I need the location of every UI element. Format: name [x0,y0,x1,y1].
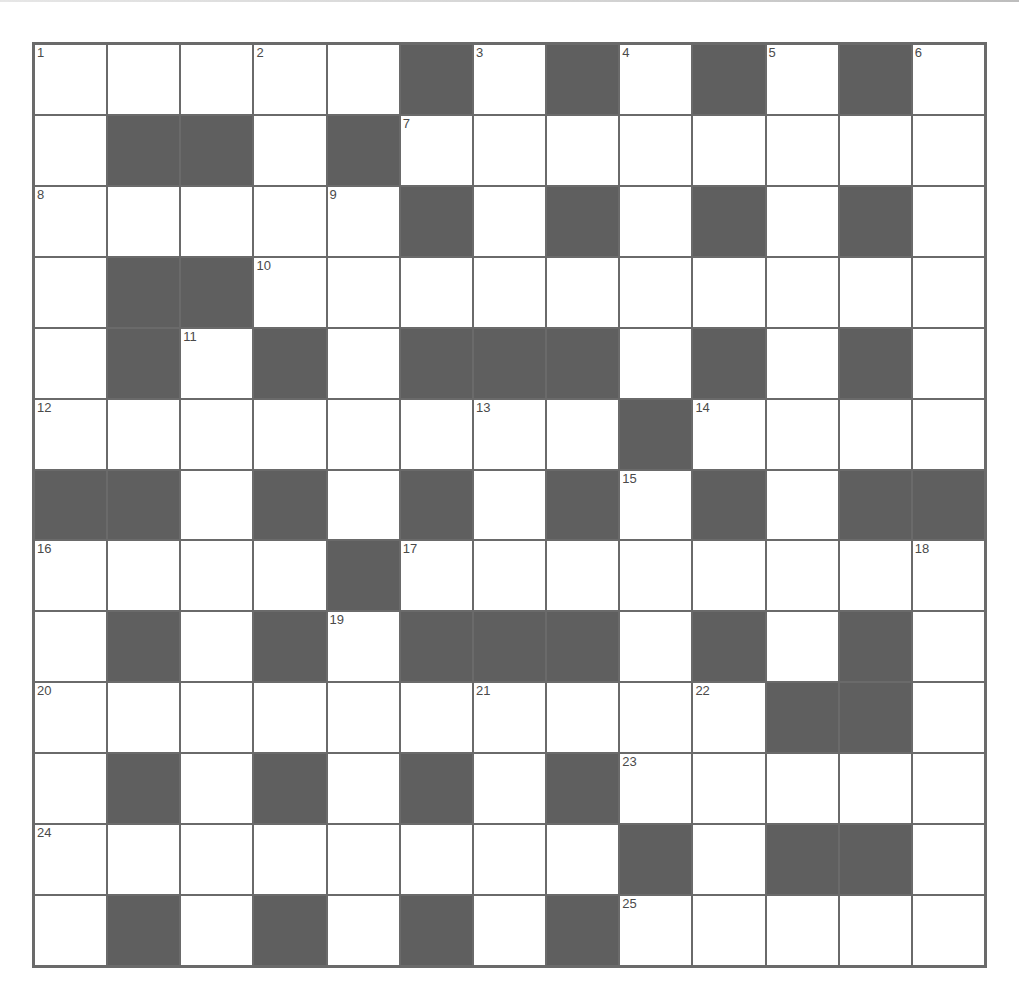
grid-cell[interactable] [767,471,838,540]
grid-cell[interactable]: 25 [620,896,691,965]
grid-cell[interactable]: 10 [254,258,325,327]
grid-cell[interactable] [401,683,472,752]
grid-cell[interactable] [328,896,399,965]
grid-cell[interactable]: 21 [474,683,545,752]
grid-cell[interactable] [547,541,618,610]
grid-cell[interactable] [620,187,691,256]
grid-cell[interactable] [254,541,325,610]
grid-cell[interactable]: 1 [35,45,106,114]
grid-cell[interactable] [693,541,764,610]
grid-cell[interactable] [913,400,984,469]
grid-cell[interactable] [693,896,764,965]
grid-cell[interactable] [620,329,691,398]
grid-cell[interactable] [254,400,325,469]
grid-cell[interactable] [693,825,764,894]
grid-cell[interactable] [767,541,838,610]
grid-cell[interactable] [840,258,911,327]
grid-cell[interactable] [474,258,545,327]
grid-cell[interactable] [840,541,911,610]
grid-cell[interactable] [913,329,984,398]
grid-cell[interactable]: 22 [693,683,764,752]
grid-cell[interactable] [35,896,106,965]
grid-cell[interactable] [328,329,399,398]
grid-cell[interactable] [474,754,545,823]
grid-cell[interactable]: 17 [401,541,472,610]
grid-cell[interactable] [181,541,252,610]
grid-cell[interactable] [767,754,838,823]
grid-cell[interactable] [693,754,764,823]
grid-cell[interactable] [547,825,618,894]
grid-cell[interactable] [767,329,838,398]
grid-cell[interactable] [767,116,838,185]
grid-cell[interactable] [913,896,984,965]
grid-cell[interactable] [35,754,106,823]
grid-cell[interactable] [328,683,399,752]
grid-cell[interactable] [547,116,618,185]
grid-cell[interactable] [840,116,911,185]
grid-cell[interactable] [913,825,984,894]
grid-cell[interactable] [35,329,106,398]
grid-cell[interactable] [474,896,545,965]
grid-cell[interactable] [767,187,838,256]
grid-cell[interactable] [328,400,399,469]
grid-cell[interactable] [913,612,984,681]
grid-cell[interactable] [767,258,838,327]
grid-cell[interactable] [840,896,911,965]
grid-cell[interactable] [35,258,106,327]
grid-cell[interactable] [181,754,252,823]
grid-cell[interactable]: 12 [35,400,106,469]
grid-cell[interactable]: 7 [401,116,472,185]
grid-cell[interactable] [181,896,252,965]
grid-cell[interactable]: 8 [35,187,106,256]
grid-cell[interactable] [254,683,325,752]
grid-cell[interactable] [474,116,545,185]
grid-cell[interactable]: 3 [474,45,545,114]
grid-cell[interactable]: 9 [328,187,399,256]
grid-cell[interactable] [767,612,838,681]
grid-cell[interactable] [767,400,838,469]
grid-cell[interactable] [474,187,545,256]
grid-cell[interactable] [547,258,618,327]
grid-cell[interactable] [181,45,252,114]
grid-cell[interactable] [254,187,325,256]
grid-cell[interactable] [620,612,691,681]
grid-cell[interactable] [181,187,252,256]
grid-cell[interactable]: 15 [620,471,691,540]
grid-cell[interactable] [620,116,691,185]
grid-cell[interactable]: 24 [35,825,106,894]
grid-cell[interactable] [254,116,325,185]
grid-cell[interactable] [840,754,911,823]
grid-cell[interactable] [547,683,618,752]
grid-cell[interactable] [913,187,984,256]
grid-cell[interactable] [181,612,252,681]
grid-cell[interactable] [401,400,472,469]
grid-cell[interactable]: 2 [254,45,325,114]
grid-cell[interactable] [474,471,545,540]
grid-cell[interactable] [474,541,545,610]
grid-cell[interactable] [913,258,984,327]
grid-cell[interactable] [328,754,399,823]
grid-cell[interactable] [35,612,106,681]
grid-cell[interactable] [913,116,984,185]
grid-cell[interactable] [108,45,179,114]
grid-cell[interactable] [35,116,106,185]
grid-cell[interactable]: 11 [181,329,252,398]
grid-cell[interactable]: 6 [913,45,984,114]
grid-cell[interactable]: 16 [35,541,106,610]
grid-cell[interactable]: 19 [328,612,399,681]
grid-cell[interactable] [108,541,179,610]
grid-cell[interactable] [108,825,179,894]
grid-cell[interactable] [108,187,179,256]
grid-cell[interactable] [693,258,764,327]
grid-cell[interactable]: 18 [913,541,984,610]
grid-cell[interactable] [328,258,399,327]
grid-cell[interactable] [840,400,911,469]
grid-cell[interactable] [913,754,984,823]
grid-cell[interactable] [620,683,691,752]
grid-cell[interactable] [328,471,399,540]
grid-cell[interactable] [401,258,472,327]
grid-cell[interactable] [620,541,691,610]
grid-cell[interactable] [108,683,179,752]
grid-cell[interactable] [328,825,399,894]
grid-cell[interactable] [181,400,252,469]
